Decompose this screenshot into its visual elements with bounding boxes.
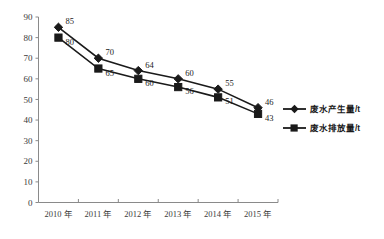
data-point-square <box>254 110 261 117</box>
x-tick-label: 2015 年 <box>244 209 272 219</box>
y-tick-label: 80 <box>24 33 34 43</box>
y-axis: 0102030405060708090 <box>24 12 39 208</box>
line-chart: 0102030405060708090 2010 年2011 年2012 年20… <box>0 0 384 239</box>
y-tick-label: 50 <box>24 95 34 105</box>
data-point-diamond <box>174 75 182 83</box>
data-point-label: 85 <box>65 16 74 26</box>
x-tick-label: 2013 年 <box>164 209 192 219</box>
data-point-label: 64 <box>145 60 154 70</box>
data-point-square <box>55 34 62 41</box>
data-point-label: 65 <box>105 68 114 78</box>
y-tick-label: 40 <box>24 115 34 125</box>
data-point-square <box>95 65 102 72</box>
chart-legend: 废水产生量/t废水排放量/t <box>283 104 360 133</box>
data-point-label: 80 <box>65 37 74 47</box>
y-tick-label: 60 <box>24 74 34 84</box>
data-point-square <box>175 83 182 90</box>
y-tick-label: 30 <box>24 136 34 146</box>
legend-marker-square <box>291 124 298 131</box>
data-point-label: 51 <box>225 96 234 106</box>
y-tick-label: 10 <box>24 177 34 187</box>
x-axis: 2010 年2011 年2012 年2013 年2014 年2015 年 <box>39 199 279 219</box>
data-point-diamond <box>214 85 222 93</box>
data-point-label: 56 <box>185 86 194 96</box>
legend-marker-diamond <box>290 105 298 113</box>
y-tick-label: 20 <box>24 156 34 166</box>
data-point-label: 60 <box>185 68 194 78</box>
x-tick-label: 2014 年 <box>204 209 232 219</box>
y-tick-label: 90 <box>24 12 34 22</box>
y-tick-label: 70 <box>24 53 34 63</box>
legend-label: 废水产生量/t <box>310 104 360 114</box>
data-point-diamond <box>134 66 142 74</box>
x-tick-label: 2011 年 <box>84 209 112 219</box>
y-tick-label: 0 <box>28 198 33 208</box>
data-point-label: 60 <box>145 78 154 88</box>
data-point-label: 46 <box>265 97 274 107</box>
x-tick-label: 2010 年 <box>44 209 72 219</box>
data-point-label: 55 <box>225 78 234 88</box>
legend-label: 废水排放量/t <box>310 123 360 133</box>
x-tick-label: 2012 年 <box>124 209 152 219</box>
data-point-square <box>215 94 222 101</box>
data-point-label: 43 <box>265 113 274 123</box>
data-point-square <box>135 75 142 82</box>
data-point-label: 70 <box>105 47 114 57</box>
